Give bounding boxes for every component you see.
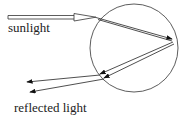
internal-rays [96, 18, 172, 42]
sunlight-label: sunlight [8, 21, 50, 34]
reflected-internal-rays [100, 42, 174, 78]
exiting-rays [27, 75, 104, 92]
reflected-light-label: reflected light [14, 101, 87, 114]
